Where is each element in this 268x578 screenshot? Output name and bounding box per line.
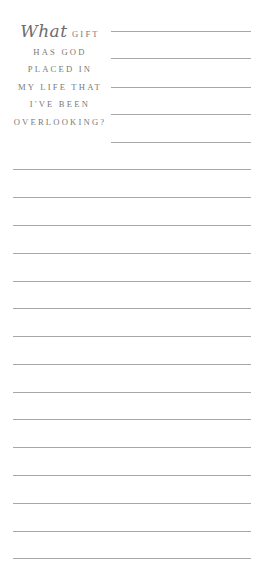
prompt-line-1: What GIFT xyxy=(12,23,108,44)
writing-line[interactable] xyxy=(13,364,251,365)
writing-line[interactable] xyxy=(13,225,251,226)
writing-line[interactable] xyxy=(13,475,251,476)
writing-line[interactable] xyxy=(13,531,251,532)
writing-line[interactable] xyxy=(13,308,251,309)
prompt-line-3: PLACED IN xyxy=(12,61,108,79)
writing-line[interactable] xyxy=(13,447,251,448)
writing-line-short[interactable] xyxy=(111,31,251,32)
writing-line[interactable] xyxy=(13,197,251,198)
writing-line[interactable] xyxy=(13,336,251,337)
writing-line[interactable] xyxy=(13,392,251,393)
writing-line[interactable] xyxy=(13,419,251,420)
journal-page: What GIFT HAS GOD PLACED IN MY LIFE THAT… xyxy=(0,0,268,578)
writing-line-short[interactable] xyxy=(111,58,251,59)
journal-prompt: What GIFT HAS GOD PLACED IN MY LIFE THAT… xyxy=(12,23,108,132)
prompt-line-4: MY LIFE THAT xyxy=(12,79,108,97)
writing-line-short[interactable] xyxy=(111,87,251,88)
prompt-script-word: What xyxy=(20,21,67,41)
writing-line-short[interactable] xyxy=(111,114,251,115)
writing-line[interactable] xyxy=(13,253,251,254)
writing-line[interactable] xyxy=(13,503,251,504)
prompt-line-6: OVERLOOKING? xyxy=(12,114,108,132)
prompt-line-2: HAS GOD xyxy=(12,44,108,62)
writing-line[interactable] xyxy=(13,281,251,282)
writing-line-short[interactable] xyxy=(111,142,251,143)
writing-line[interactable] xyxy=(13,169,251,170)
prompt-line-5: I'VE BEEN xyxy=(12,96,108,114)
writing-line[interactable] xyxy=(13,558,251,559)
